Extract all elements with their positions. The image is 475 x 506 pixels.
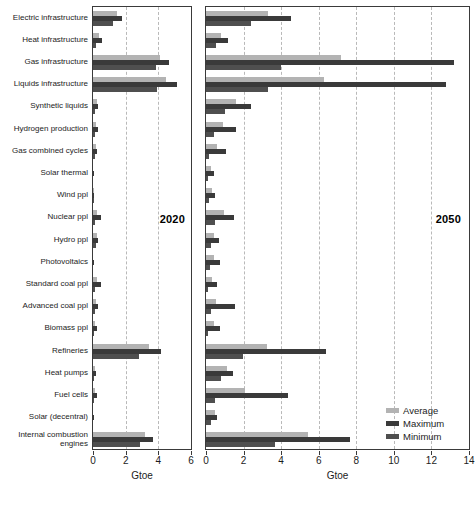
legend-swatch-average <box>386 408 399 413</box>
category-label: Solar (decentral) <box>0 412 88 421</box>
bar-group <box>93 144 191 159</box>
bar-group <box>93 99 191 114</box>
bar-min <box>206 176 208 181</box>
bar-group <box>93 299 191 314</box>
bar-group <box>206 99 469 114</box>
bar-group <box>206 166 469 181</box>
x-tick-label: 4 <box>156 455 162 466</box>
legend-item: Maximum <box>386 417 470 430</box>
bar-min <box>93 21 113 26</box>
bar-min <box>206 376 221 381</box>
bar-group <box>93 388 191 403</box>
bar-min <box>206 331 208 336</box>
panel-year-label-2020: 2020 <box>160 213 185 225</box>
category-label: Solar thermal <box>0 168 88 177</box>
x-tick-label: 0 <box>90 455 96 466</box>
x-tick-label: 2 <box>123 455 129 466</box>
bar-max <box>93 415 94 420</box>
bar-group <box>93 410 191 425</box>
bar-min <box>206 198 209 203</box>
bar-group <box>93 255 191 270</box>
category-label: Nuclear ppl <box>0 212 88 221</box>
bar-group <box>93 11 191 26</box>
gridline <box>319 7 320 449</box>
legend-item: Minimum <box>386 430 470 443</box>
plot-area-2020 <box>93 7 191 449</box>
category-label: Heat infrastructure <box>0 35 88 44</box>
bar-group <box>206 122 469 137</box>
category-label: Internal combustion engines <box>0 430 88 448</box>
bar-group <box>206 299 469 314</box>
category-label: Hydro ppl <box>0 235 88 244</box>
x-tick-label: 14 <box>463 455 474 466</box>
bar-min <box>206 420 211 425</box>
category-label: Refineries <box>0 346 88 355</box>
bar-group <box>206 188 469 203</box>
bar-group <box>206 144 469 159</box>
bar-min <box>93 354 139 359</box>
bar-min <box>206 398 215 403</box>
bar-min <box>93 309 95 314</box>
bar-min <box>93 442 140 447</box>
bar-group <box>206 388 469 403</box>
bar-min <box>93 43 96 48</box>
gridline <box>281 7 282 449</box>
category-label: Biomass ppl <box>0 323 88 332</box>
bar-group <box>93 55 191 70</box>
bar-min <box>93 376 94 381</box>
bar-group <box>206 277 469 292</box>
gridline <box>431 7 432 449</box>
bar-min <box>93 154 95 159</box>
legend-swatch-maximum <box>386 421 399 426</box>
legend-label: Minimum <box>403 431 442 442</box>
bar-min <box>93 243 96 248</box>
bar-min <box>93 109 95 114</box>
bar-min <box>206 132 214 137</box>
bar-group <box>206 33 469 48</box>
gridline <box>126 7 127 449</box>
legend-label: Average <box>403 405 438 416</box>
bar-min <box>206 109 225 114</box>
bar-min <box>93 398 94 403</box>
bar-min <box>206 220 215 225</box>
bar-max <box>93 171 94 176</box>
category-label: Gas combined cycles <box>0 146 88 155</box>
legend-swatch-minimum <box>386 434 399 439</box>
gridline <box>394 7 395 449</box>
bar-min <box>206 65 281 70</box>
bar-group <box>93 344 191 359</box>
x-axis-2050: Gtoe 02468101214 <box>205 451 470 481</box>
bar-min <box>93 65 156 70</box>
bar-group <box>206 233 469 248</box>
bar-group <box>93 366 191 381</box>
x-axis-title-2050: Gtoe <box>205 470 470 481</box>
category-label: Electric infrastructure <box>0 13 88 22</box>
category-label-column: Electric infrastructureHeat infrastructu… <box>0 6 92 450</box>
x-tick-label: 6 <box>188 455 194 466</box>
panel-2050: 2050 <box>205 6 470 450</box>
bar-min <box>206 87 268 92</box>
plot-area-2050 <box>206 7 469 449</box>
bar-max <box>206 149 226 154</box>
bar-group <box>93 77 191 92</box>
bar-min <box>93 220 95 225</box>
bar-min <box>93 87 157 92</box>
category-label: Wind ppl <box>0 190 88 199</box>
category-label: Advanced coal ppl <box>0 301 88 310</box>
x-axis-title-2020: Gtoe <box>92 470 192 481</box>
x-tick-label: 2 <box>241 455 247 466</box>
x-tick-label: 0 <box>203 455 209 466</box>
gridline <box>356 7 357 449</box>
bar-group <box>93 166 191 181</box>
legend: AverageMaximumMinimum <box>386 404 470 443</box>
bar-group <box>93 432 191 447</box>
bar-min <box>93 331 94 336</box>
bar-group <box>206 11 469 26</box>
category-label: Synthetic liquids <box>0 101 88 110</box>
bar-min <box>206 287 208 292</box>
x-tick-label: 12 <box>426 455 437 466</box>
bar-group <box>93 321 191 336</box>
bar-min <box>93 132 95 137</box>
bar-group <box>206 344 469 359</box>
bar-max <box>93 260 94 265</box>
